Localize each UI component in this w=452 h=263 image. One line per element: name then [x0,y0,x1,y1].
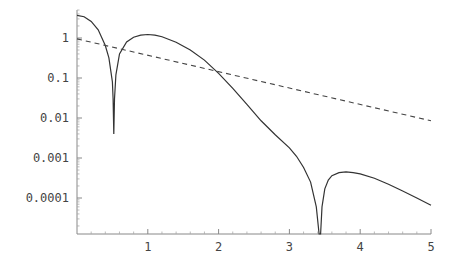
x-tick-label: 3 [286,240,293,254]
y-tick-label: 0.01 [40,111,69,125]
x-tick-label: 5 [427,240,434,254]
series-layer [77,15,431,234]
y-tick-label: 0.0001 [26,191,69,205]
y-tick-label: 0.1 [47,71,69,85]
x-axis: 12345 [77,229,435,254]
y-tick-label: 1 [62,31,69,45]
x-tick-label: 4 [357,240,364,254]
log-plot: 10.10.010.0010.0001 12345 [0,0,452,263]
x-tick-label: 1 [144,240,151,254]
y-axis: 10.10.010.0010.0001 [26,10,82,234]
solid-curve [77,15,431,234]
y-tick-label: 0.001 [33,151,69,165]
x-tick-label: 2 [215,240,222,254]
dashed-curve [77,39,431,121]
